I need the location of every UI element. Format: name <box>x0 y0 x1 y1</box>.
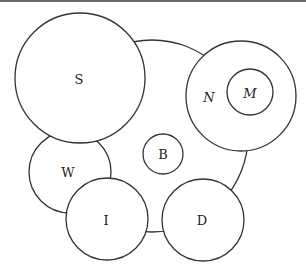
label-d: D <box>197 213 207 228</box>
label-s: S <box>75 72 84 87</box>
label-i: I <box>103 213 108 228</box>
diagram-canvas: S N M B W I D <box>0 0 306 278</box>
label-w: W <box>61 165 75 180</box>
circle-diagram: S N M B W I D <box>0 0 306 278</box>
label-n: N <box>202 90 215 105</box>
label-m: M <box>242 86 257 101</box>
label-b: B <box>158 147 168 162</box>
